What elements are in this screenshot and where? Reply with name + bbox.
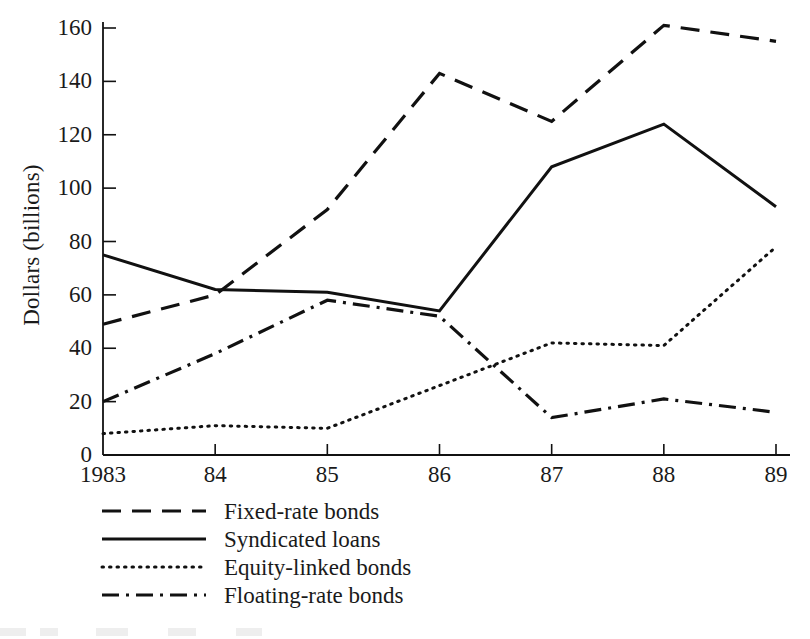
- x-tick-label: 1983: [58, 463, 148, 486]
- series-line: [103, 124, 776, 311]
- y-tick-label: 20: [32, 390, 92, 413]
- x-tick-label: 84: [170, 463, 260, 486]
- y-axis-tick-labels: 020406080100120140160: [32, 0, 92, 639]
- y-tick-label: 160: [32, 16, 92, 39]
- x-tick-label: 89: [731, 463, 810, 486]
- x-tick-label: 88: [619, 463, 709, 486]
- legend-item-label: Floating-rate bonds: [224, 584, 404, 607]
- series-lines: [103, 25, 776, 433]
- x-tick-label: 86: [395, 463, 485, 486]
- legend-item-label: Equity-linked bonds: [224, 556, 411, 579]
- y-tick-label: 120: [32, 123, 92, 146]
- y-tick-label: 60: [32, 283, 92, 306]
- y-tick-label: 80: [32, 230, 92, 253]
- legend-line-sample: [100, 529, 208, 549]
- axis-lines: [103, 22, 790, 455]
- series-line: [103, 247, 776, 434]
- x-axis-tick-labels: 1983848586878889: [0, 463, 810, 497]
- series-line: [103, 25, 776, 324]
- legend-line-sample: [100, 501, 208, 521]
- scan-artifact: [0, 628, 300, 636]
- chart-plot-svg: [103, 20, 793, 465]
- legend-item[interactable]: Equity-linked bonds: [100, 553, 560, 581]
- x-tick-label: 87: [507, 463, 597, 486]
- y-tick-label: 140: [32, 69, 92, 92]
- legend-item-label: Syndicated loans: [224, 528, 381, 551]
- plot-area: [103, 20, 793, 465]
- y-tick-label: 40: [32, 336, 92, 359]
- legend-line-sample: [100, 557, 208, 577]
- legend-item[interactable]: Floating-rate bonds: [100, 581, 560, 609]
- line-chart-figure: Dollars (billions) 020406080100120140160…: [0, 0, 810, 639]
- y-tick-label: 100: [32, 176, 92, 199]
- tick-marks: [103, 28, 776, 455]
- legend-item-label: Fixed-rate bonds: [224, 500, 379, 523]
- legend-item[interactable]: Syndicated loans: [100, 525, 560, 553]
- legend-item[interactable]: Fixed-rate bonds: [100, 497, 560, 525]
- legend-line-sample: [100, 585, 208, 605]
- x-tick-label: 85: [282, 463, 372, 486]
- series-line: [103, 300, 776, 417]
- chart-legend: Fixed-rate bondsSyndicated loansEquity-l…: [100, 497, 560, 609]
